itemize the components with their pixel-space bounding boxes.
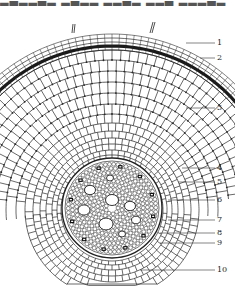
label-1: 1 <box>217 39 222 47</box>
label-5: 5 <box>217 178 222 186</box>
label-2: 2 <box>217 54 222 62</box>
label-6: 6 <box>217 196 222 204</box>
label-9: 9 <box>217 239 222 247</box>
label-4: 4 <box>217 164 222 172</box>
label-8: 8 <box>217 229 222 237</box>
root-cross-section-diagram <box>0 0 235 286</box>
label-10: 10 <box>217 266 227 274</box>
label-3: 3 <box>217 104 222 112</box>
stele <box>62 158 162 258</box>
label-7: 7 <box>217 216 222 224</box>
